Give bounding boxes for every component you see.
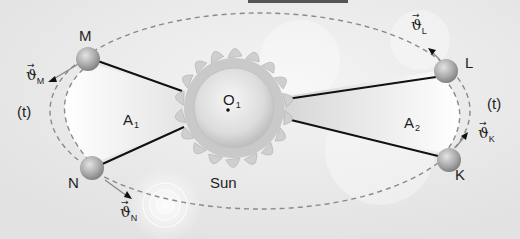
planet-n <box>80 156 104 180</box>
sun-center-label: O1 <box>223 92 241 110</box>
diagram-graphics <box>0 0 520 239</box>
kepler-diagram: M N L K →ϑM →ϑN →ϑL →ϑK A1 A2 (t) (t) O1… <box>0 0 520 239</box>
planet-m <box>76 47 100 71</box>
planet-l <box>434 59 458 83</box>
area-label-a1: A1 <box>123 112 139 130</box>
time-label-right: (t) <box>487 96 501 111</box>
planet-label-l: L <box>465 55 473 70</box>
velocity-label-n: →ϑN <box>120 205 137 223</box>
planet-label-k: K <box>455 167 465 182</box>
planet-label-m: M <box>79 28 92 43</box>
velocity-label-m: →ϑM <box>26 68 44 86</box>
sun-label: Sun <box>210 174 237 191</box>
planet-label-n: N <box>68 175 79 190</box>
velocity-label-l: →ϑL <box>411 18 427 36</box>
time-label-left: (t) <box>17 104 31 119</box>
velocity-label-k: →ϑK <box>478 126 495 144</box>
top-bar <box>248 0 348 3</box>
area-label-a2: A2 <box>404 115 420 133</box>
